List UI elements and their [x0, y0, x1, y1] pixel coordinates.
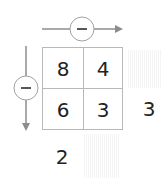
number-grid: 8 4 6 3: [42, 47, 123, 130]
col-1-result: 2: [50, 145, 74, 169]
grid-cell-r2c1: 6: [43, 89, 83, 130]
row-2-result: 3: [137, 97, 161, 121]
col-2-result-blank[interactable]: [84, 134, 120, 178]
grid-cell-r1c2: 4: [83, 48, 123, 89]
row-1-result-blank[interactable]: [128, 50, 162, 88]
down-arrowhead-icon: [22, 123, 30, 131]
grid-cell-r1c1: 8: [43, 48, 83, 89]
grid-cell-r2c2: 3: [83, 89, 123, 130]
right-arrowhead-icon: [115, 25, 123, 33]
